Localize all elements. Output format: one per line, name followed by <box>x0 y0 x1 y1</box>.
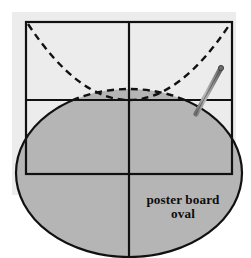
figure-container: poster board oval <box>0 0 251 258</box>
pointer-tip <box>218 65 223 70</box>
oval-caption-line-2: oval <box>171 206 195 221</box>
poster-board-oval-figure: poster board oval <box>0 0 251 258</box>
oval-caption-line-1: poster board <box>146 192 220 207</box>
